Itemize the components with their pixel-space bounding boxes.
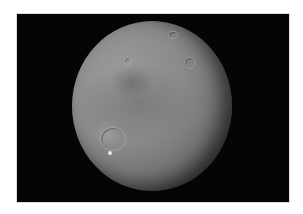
- moon: [72, 21, 232, 191]
- photo-frame: [17, 14, 289, 202]
- bright-spot: [108, 151, 112, 155]
- crater: [184, 57, 196, 69]
- crater: [168, 31, 178, 39]
- crater: [124, 57, 132, 65]
- large-crater: [100, 127, 126, 151]
